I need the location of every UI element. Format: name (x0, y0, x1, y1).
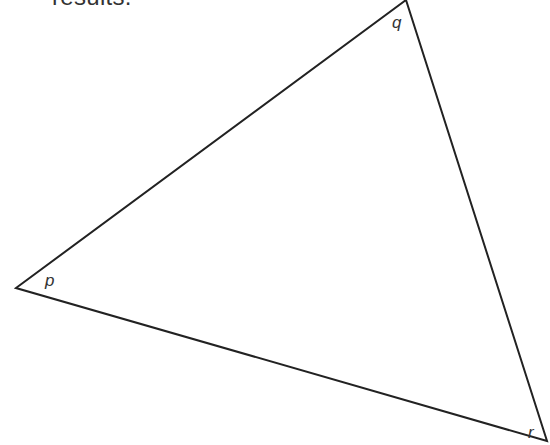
vertex-label-q: q (392, 13, 402, 32)
vertex-label-r: r (528, 423, 535, 442)
triangle-diagram: q p r (0, 0, 550, 445)
vertex-label-p: p (44, 271, 54, 290)
triangle-pqr (16, 0, 547, 441)
